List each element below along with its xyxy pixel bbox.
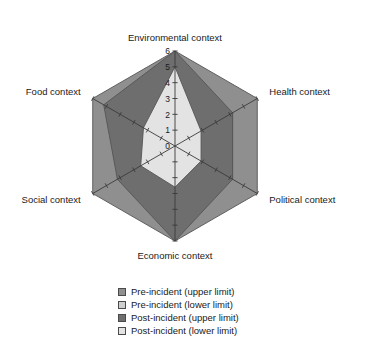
chart-legend: Pre-incident (upper limit) Pre-incident … [118,286,318,338]
legend-swatch-icon [118,288,126,296]
legend-item-label: Pre-incident (upper limit) [131,286,234,298]
y-tick-label-5: 5 [165,62,170,72]
axis-label-health: Health context [269,86,330,97]
y-tick-label-1: 1 [165,125,170,135]
y-tick-label-0: 0 [165,141,170,151]
axis-label-social: Social context [22,194,82,205]
legend-item-post-incident-lower: Post-incident (lower limit) [118,325,318,337]
legend-swatch-icon [118,314,126,322]
axis-label-environmental: Environmental context [128,32,222,43]
legend-item-label: Post-incident (lower limit) [131,325,237,337]
y-tick-label-3: 3 [165,94,170,104]
legend-swatch-icon [118,327,126,335]
y-tick-label-4: 4 [165,78,170,88]
y-tick-label-2: 2 [165,110,170,120]
legend-item-post-incident-upper: Post-incident (upper limit) [118,312,318,324]
legend-item-label: Pre-incident (lower limit) [131,299,233,311]
y-tick-label-6: 6 [165,46,170,56]
axis-label-economic: Economic context [138,250,213,261]
axis-label-political: Political context [269,194,335,205]
legend-swatch-icon [118,301,126,309]
legend-item-pre-incident-lower: Pre-incident (lower limit) [118,299,318,311]
axis-label-food: Food context [26,86,81,97]
legend-item-pre-incident-upper: Pre-incident (upper limit) [118,286,318,298]
legend-item-label: Post-incident (upper limit) [131,312,239,324]
